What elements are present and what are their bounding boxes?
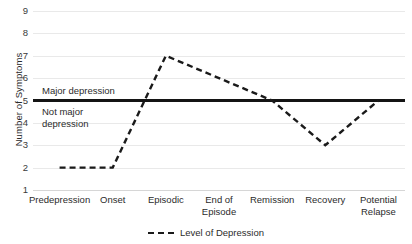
depression-course-chart: Number of Symptoms 123456789 Major depre… (0, 0, 412, 244)
legend-item-label: Level of Depression (180, 227, 264, 238)
x-tick-label-5: Recovery (305, 194, 345, 206)
y-tick-label-3: 3 (14, 141, 28, 151)
y-tick-label-8: 8 (14, 29, 28, 39)
chart-legend: Level of Depression (0, 227, 412, 238)
x-tick-label-1: Onset (100, 194, 125, 206)
y-tick-label-6: 6 (14, 73, 28, 83)
y-tick-label-4: 4 (14, 118, 28, 128)
x-tick-label-4: Remission (250, 194, 294, 206)
plot-area: 123456789 Major depression Not major dep… (33, 11, 405, 190)
gridline-1 (33, 190, 405, 191)
y-tick-label-2: 2 (14, 163, 28, 173)
dashed-line-marker-icon (148, 232, 174, 234)
x-axis-labels-group: PredepressionOnsetEpisodicEnd of Episode… (33, 194, 405, 224)
level-of-depression-line (33, 11, 405, 190)
y-tick-label-1: 1 (14, 185, 28, 195)
y-tick-label-5: 5 (14, 96, 28, 106)
x-tick-label-2: Episodic (148, 194, 184, 206)
y-tick-label-9: 9 (14, 6, 28, 16)
x-tick-label-3: End of Episode (202, 194, 236, 217)
x-tick-label-0: Predepression (29, 194, 90, 206)
x-tick-label-6: Potential Relapse (360, 194, 397, 217)
y-tick-label-7: 7 (14, 51, 28, 61)
